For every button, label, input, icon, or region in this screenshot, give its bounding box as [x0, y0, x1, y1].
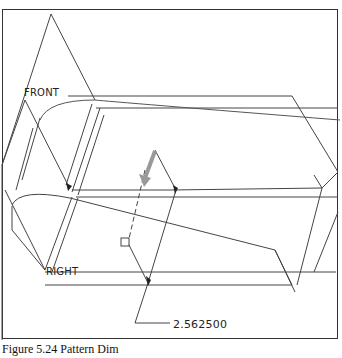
dimension-value[interactable]: 2.562500: [173, 318, 227, 331]
dimension-leader: [135, 283, 170, 323]
front-datum-label: FRONT: [24, 87, 59, 98]
figure-caption: Figure 5.24 Pattern Dim: [2, 342, 119, 357]
viewport-frame: [3, 10, 338, 339]
right-datum-label: RIGHT: [46, 266, 78, 277]
dimension-witness: [155, 150, 176, 190]
drag-handle: [121, 238, 129, 246]
